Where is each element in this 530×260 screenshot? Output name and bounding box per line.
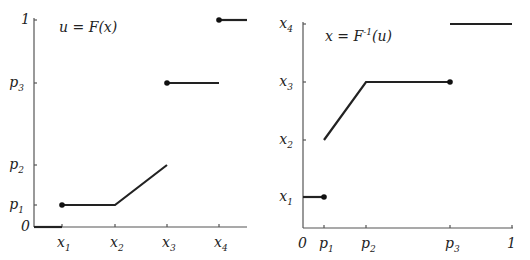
- y-tick-label: 0: [21, 218, 30, 234]
- figure: u = F(x) x1x2x3x4 0p1p2p31 x = F-1(u) 0p…: [0, 0, 530, 260]
- x-tick-label: 1: [507, 235, 516, 251]
- closed-point: [447, 79, 453, 85]
- y-tick-label: p1: [9, 196, 24, 215]
- x-tick-label: x2: [110, 234, 124, 253]
- y-tick-label: p3: [9, 74, 24, 93]
- y-tick-label: x1: [279, 188, 293, 207]
- x-tick-label: 0: [298, 235, 307, 251]
- x-tick-label: x1: [57, 234, 71, 253]
- closed-point: [216, 17, 222, 23]
- x-tick-label: x3: [162, 234, 176, 253]
- inverse-cdf-chart: x = F-1(u) 0p1p2p31 x1x2x3x4: [279, 15, 516, 254]
- closed-point: [164, 80, 170, 86]
- x-tick-label: p2: [361, 235, 376, 254]
- x-tick-label: x4: [214, 234, 228, 253]
- line-segment: [324, 82, 450, 140]
- y-tick-label: x3: [279, 73, 293, 92]
- chart-title: u = F(x): [59, 19, 117, 35]
- chart-title: x = F-1(u): [325, 27, 392, 44]
- x-tick-label: p1: [319, 235, 334, 254]
- y-tick-label: 1: [21, 11, 30, 27]
- line-segment: [62, 165, 167, 205]
- closed-point: [59, 202, 65, 208]
- y-tick-label: x4: [279, 15, 293, 34]
- closed-point: [321, 194, 327, 200]
- y-tick-label: p2: [9, 156, 24, 175]
- x-tick-label: p3: [445, 235, 460, 254]
- cdf-chart: u = F(x) x1x2x3x4 0p1p2p31: [9, 11, 247, 253]
- y-tick-label: x2: [279, 131, 293, 150]
